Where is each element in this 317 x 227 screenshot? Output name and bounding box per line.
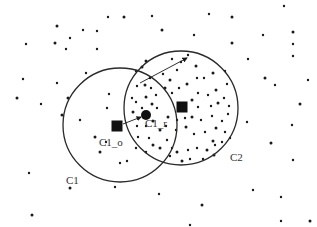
data-point [181,160,184,163]
data-point [201,204,204,207]
data-point [126,160,128,162]
data-point [65,48,67,50]
data-point [137,136,139,138]
label-c2: C2 [230,152,243,163]
data-point [196,77,198,79]
data-point [148,137,150,139]
data-point [178,87,180,89]
data-point [159,147,162,150]
data-point [176,151,179,154]
data-point [150,87,152,89]
data-point [135,101,137,103]
data-point [131,97,133,99]
data-point [185,126,188,129]
data-point [292,55,294,57]
data-point [69,37,71,39]
data-point [187,54,189,56]
data-point [246,121,248,123]
data-point [40,103,42,105]
data-point [270,142,273,145]
data-point [119,162,121,164]
data-point [28,172,30,174]
data-point [247,58,249,60]
data-point [231,16,234,19]
data-point [96,48,98,50]
data-point [274,84,276,86]
data-point [207,94,209,96]
data-point [217,102,220,105]
data-point [114,186,116,188]
data-point [223,97,225,99]
data-point [307,79,309,81]
data-point [176,69,178,71]
data-point [262,34,264,36]
data-point [136,85,138,87]
data-point [56,82,58,84]
data-point [191,99,194,102]
data-point [203,77,205,79]
data-point [152,144,155,147]
data-point [85,72,87,74]
data-point [299,103,302,106]
data-point [82,29,84,31]
data-point [169,79,172,82]
label-c1-r: C1_r [145,118,167,129]
data-point [193,34,195,36]
data-point [145,96,148,99]
data-point [123,16,126,19]
data-point [204,131,206,133]
data-point [211,115,213,117]
data-point [189,158,191,160]
data-point [31,214,34,217]
data-point [231,42,234,45]
data-point [212,72,215,75]
data-point [96,30,98,32]
data-point [132,111,135,114]
data-point [283,5,285,7]
data-point [195,65,198,68]
arrows [123,58,187,124]
data-point [292,159,294,161]
data-point [94,136,97,139]
data-point [215,127,218,130]
data-point [215,89,218,92]
data-point [155,94,157,96]
square-marker-c1-o [112,121,123,132]
data-point [151,15,153,17]
data-point [206,149,209,152]
data-point [135,147,137,149]
label-c1-o: C1_o [99,137,123,148]
data-point [191,116,194,119]
data-point [210,105,212,107]
data-point [252,189,254,191]
data-point [151,103,154,106]
data-point [106,107,108,109]
data-point [292,31,295,34]
data-point [169,155,171,157]
data-point [22,78,24,80]
data-point [56,25,59,28]
data-point [221,141,223,143]
data-point [227,113,229,115]
data-point [25,43,27,45]
diagram-canvas [0,0,317,227]
data-point [200,119,202,121]
data-point [221,120,223,122]
data-point [108,93,110,95]
data-point [226,83,228,85]
data-point [99,151,102,154]
data-point [228,105,230,107]
data-point [309,220,312,223]
data-point [79,119,81,121]
data-point [141,107,143,109]
data-point [214,144,216,146]
data-point [196,147,198,149]
data-point [280,196,282,198]
data-point [16,97,19,100]
data-point [208,13,210,15]
data-point [69,187,72,190]
data-point [197,106,199,108]
data-point [171,58,173,60]
data-point [186,83,189,86]
data-point [136,125,138,127]
